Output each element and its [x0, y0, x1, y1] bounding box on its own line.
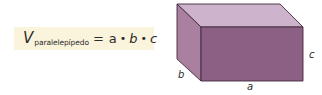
- prism-front-face: [201, 27, 303, 81]
- parallelepiped-figure: [0, 0, 322, 95]
- label-a: a: [247, 81, 253, 92]
- label-c: c: [309, 49, 315, 60]
- label-b: b: [178, 69, 184, 80]
